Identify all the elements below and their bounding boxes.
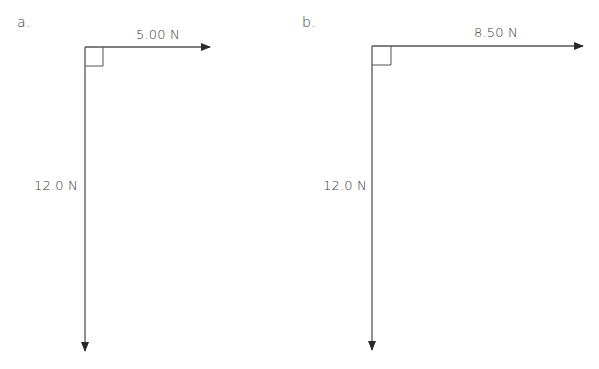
right-angle-marker-b xyxy=(372,46,391,65)
diagram-a-label: a. xyxy=(17,14,30,30)
diagram-b-horizontal-force-label: 8.50 N xyxy=(474,25,518,40)
diagram-b xyxy=(372,46,583,350)
right-angle-marker-a xyxy=(85,47,103,66)
force-diagrams xyxy=(0,0,599,369)
diagram-a xyxy=(85,47,210,351)
diagram-b-label: b. xyxy=(302,14,316,30)
diagram-b-vertical-force-label: 12.0 N xyxy=(323,178,367,193)
diagram-a-horizontal-force-label: 5.00 N xyxy=(136,27,180,42)
diagram-a-vertical-force-label: 12.0 N xyxy=(34,178,78,193)
